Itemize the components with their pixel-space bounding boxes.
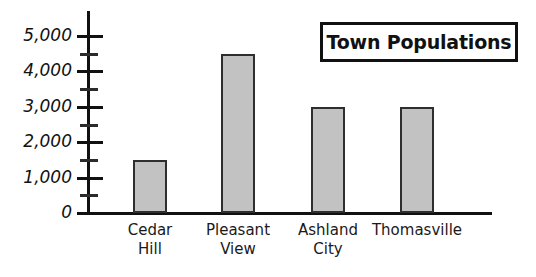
y-axis-line: [87, 11, 90, 215]
y-axis-tick-label: 3,000: [0, 96, 72, 116]
y-axis-tick-label: 5,000: [0, 25, 72, 45]
x-axis-category-label: Pleasant View: [183, 221, 293, 259]
y-axis-minor-tick: [80, 124, 98, 127]
bar: [311, 107, 345, 213]
y-axis-minor-tick: [80, 88, 98, 91]
bar: [221, 54, 255, 213]
bar: [133, 160, 167, 213]
x-axis-category-label: Thomasville: [357, 221, 477, 240]
y-axis-tick-label: 1,000: [0, 167, 72, 187]
y-axis-major-tick: [77, 141, 103, 144]
y-axis-major-tick: [77, 212, 103, 215]
bar: [400, 107, 434, 213]
y-axis-major-tick: [77, 106, 103, 109]
y-axis-minor-tick: [80, 194, 98, 197]
y-axis-tick-label: 4,000: [0, 60, 72, 80]
y-axis-major-tick: [77, 177, 103, 180]
y-axis-major-tick: [77, 35, 103, 38]
y-axis-tick-label: 2,000: [0, 131, 72, 151]
y-axis-minor-tick: [80, 53, 98, 56]
y-axis-tick-label: 0: [0, 202, 72, 222]
y-axis-major-tick: [77, 70, 103, 73]
bar-chart: Town Populations 5,0004,0003,0002,0001,0…: [0, 0, 536, 277]
chart-title-box: Town Populations: [320, 22, 518, 62]
y-axis-minor-tick: [80, 159, 98, 162]
page-title: Town Populations: [327, 31, 512, 53]
